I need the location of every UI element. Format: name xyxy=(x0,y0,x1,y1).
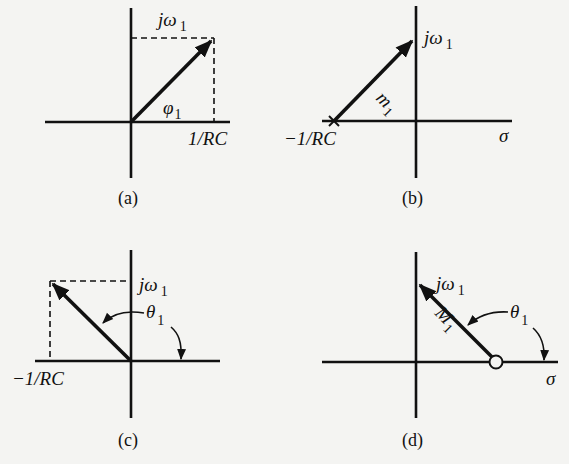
imag-label: jω1 xyxy=(136,274,168,299)
s-plane-vector-diagrams: jω1 φ1 1/RC (a) jω1 m1 −1/RC σ (b) jω1 θ… xyxy=(0,0,569,464)
imag-label: jω1 xyxy=(155,9,187,34)
vector-arrow xyxy=(334,41,412,121)
angle-arc-to-vector xyxy=(468,312,508,325)
imag-label: jω1 xyxy=(433,273,465,298)
real-point-label: 1/RC xyxy=(188,128,227,149)
vector-arrow xyxy=(53,284,131,361)
real-point-label: −1/RC xyxy=(12,368,64,389)
caption: (c) xyxy=(118,430,138,451)
panel-a: jω1 φ1 1/RC (a) xyxy=(45,8,230,209)
sigma-axis-label: σ xyxy=(546,368,556,389)
magnitude-label: m1 xyxy=(369,87,402,120)
angle-label: θ1 xyxy=(510,301,528,328)
vector-arrow xyxy=(420,285,493,358)
caption: (d) xyxy=(402,430,423,451)
caption: (a) xyxy=(118,188,138,209)
panel-b: jω1 m1 −1/RC σ (b) xyxy=(284,6,512,209)
panel-c: jω1 θ1 −1/RC (c) xyxy=(12,250,220,451)
pole-label: −1/RC xyxy=(284,128,336,149)
magnitude-label: M1 xyxy=(428,301,463,336)
angle-arc-to-axis xyxy=(533,328,544,360)
caption: (b) xyxy=(402,188,423,209)
imag-label: jω1 xyxy=(421,27,453,52)
sigma-axis-label: σ xyxy=(499,125,509,146)
zero-circle-marker xyxy=(490,356,503,369)
panel-d: jω1 M1 θ1 σ (d) xyxy=(322,252,558,451)
angle-arc-to-vector xyxy=(103,312,144,323)
angle-label: φ1 xyxy=(163,97,182,122)
angle-label: θ1 xyxy=(146,301,164,328)
angle-arc-to-axis xyxy=(171,327,181,359)
